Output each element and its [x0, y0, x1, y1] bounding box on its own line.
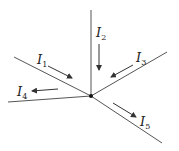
arrow-i3-icon [111, 65, 133, 77]
junction-diagram: I1 I2 I3 I4 I5 [0, 0, 179, 151]
label-i3-sub: 3 [141, 58, 146, 67]
label-i1-sub: 1 [42, 60, 47, 69]
label-i1: I1 [37, 53, 47, 69]
label-i4: I4 [17, 85, 27, 101]
label-i2-sub: 2 [101, 33, 106, 42]
label-i5-sub: 5 [145, 122, 150, 131]
junction-node [89, 94, 93, 98]
label-i4-sub: 4 [22, 92, 27, 101]
arrow-i5-icon [113, 103, 136, 117]
wire-5 [91, 96, 162, 143]
wires-svg [0, 0, 179, 151]
label-i2: I2 [96, 26, 106, 42]
label-i3: I3 [136, 51, 146, 67]
label-i5: I5 [140, 115, 150, 131]
arrow-i4-icon [32, 89, 58, 91]
wire-3 [91, 52, 167, 96]
